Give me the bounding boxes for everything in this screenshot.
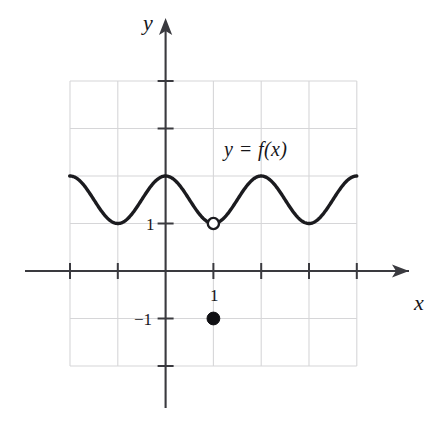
y-axis-label: y (143, 12, 153, 34)
x-axis-label: x (414, 292, 424, 314)
function-equation-label: y = f(x) (224, 139, 287, 159)
open-point-discontinuity (208, 218, 219, 229)
closed-point-value (207, 312, 220, 325)
y-axis-tick-label-one: 1 (146, 216, 155, 233)
y-axis-tick-label-negative-one: −1 (134, 311, 152, 328)
function-graph-figure (0, 0, 444, 442)
x-axis-tick-label-one: 1 (210, 287, 219, 304)
